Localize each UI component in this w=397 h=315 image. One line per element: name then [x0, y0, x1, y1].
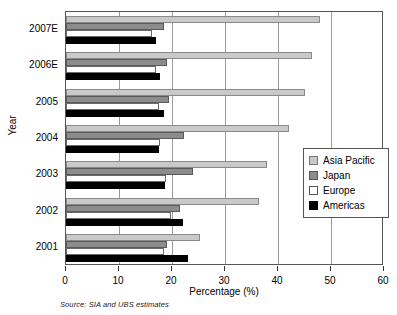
x-axis-title: Percentage (%)	[65, 286, 383, 297]
x-axis-tick-mark	[277, 266, 278, 271]
bar	[66, 30, 152, 37]
bar	[66, 66, 156, 73]
y-axis-tick-label: 2005	[0, 96, 58, 107]
bar	[66, 146, 159, 153]
bar	[66, 52, 312, 59]
bar-chart: Year 2007E2006E20052004200320022001 0102…	[0, 0, 397, 315]
legend-swatch-icon	[309, 156, 318, 165]
bar	[66, 132, 184, 139]
legend-swatch-icon	[309, 186, 318, 195]
gridline	[331, 12, 332, 264]
legend-item[interactable]: Japan	[309, 168, 384, 183]
bar	[66, 59, 167, 66]
bar	[66, 212, 171, 219]
x-axis-tick-label: 0	[53, 275, 77, 286]
y-axis-tick-label: 2007E	[0, 23, 58, 34]
x-axis-tick-label: 10	[106, 275, 130, 286]
x-axis-tick-mark	[65, 266, 66, 271]
legend-label: Japan	[323, 170, 350, 181]
x-axis-tick-mark	[171, 266, 172, 271]
y-axis-tick-label: 2006E	[0, 59, 58, 70]
legend-swatch-icon	[309, 171, 318, 180]
bar	[66, 219, 183, 226]
bar	[66, 198, 259, 205]
source-note: Source: SIA and UBS estimates	[60, 300, 169, 309]
bar	[66, 16, 320, 23]
gridline	[225, 12, 226, 264]
x-axis-tick-mark	[383, 266, 384, 271]
legend-label: Americas	[323, 200, 365, 211]
bar	[66, 161, 267, 168]
x-axis-tick-label: 20	[159, 275, 183, 286]
bar	[66, 234, 200, 241]
y-axis-tick-label: 2002	[0, 205, 58, 216]
bar	[66, 182, 165, 189]
bar	[66, 255, 188, 262]
bar	[66, 73, 160, 80]
legend-label: Europe	[323, 185, 355, 196]
gridline	[278, 12, 279, 264]
bar	[66, 110, 164, 117]
x-axis-tick-label: 60	[371, 275, 395, 286]
bar	[66, 175, 166, 182]
x-axis-tick-label: 50	[318, 275, 342, 286]
x-axis-tick-mark	[330, 266, 331, 271]
x-axis-tick-mark	[118, 266, 119, 271]
x-axis-tick-label: 40	[265, 275, 289, 286]
bar	[66, 248, 164, 255]
bar	[66, 139, 160, 146]
bar	[66, 205, 180, 212]
legend-swatch-icon	[309, 201, 318, 210]
legend-item[interactable]: Europe	[309, 183, 384, 198]
bar	[66, 125, 289, 132]
y-axis-tick-label: 2003	[0, 168, 58, 179]
legend-item[interactable]: Americas	[309, 198, 384, 213]
plot-area	[65, 11, 383, 265]
x-axis-tick-label: 30	[212, 275, 236, 286]
y-axis-tick-label: 2004	[0, 132, 58, 143]
bar	[66, 96, 169, 103]
bar	[66, 168, 193, 175]
x-axis-tick-mark	[224, 266, 225, 271]
chart-legend: Asia PacificJapanEuropeAmericas	[303, 148, 389, 218]
bar	[66, 37, 156, 44]
legend-label: Asia Pacific	[323, 155, 375, 166]
x-axis-tick-labels: 0102030405060	[0, 266, 397, 286]
bar	[66, 89, 305, 96]
bar	[66, 241, 167, 248]
bar	[66, 23, 164, 30]
legend-item[interactable]: Asia Pacific	[309, 153, 384, 168]
y-axis-tick-label: 2001	[0, 241, 58, 252]
bar	[66, 103, 159, 110]
